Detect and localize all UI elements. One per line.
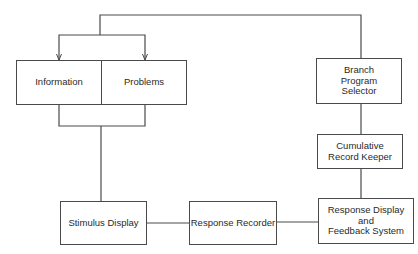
response-recorder-box: Response Recorder — [189, 201, 277, 245]
problems-label: Problems — [124, 77, 164, 88]
stimulus-display-label: Stimulus Display — [68, 218, 138, 229]
response-display-feedback-label: Response Display and Feedback System — [328, 205, 405, 237]
cumulative-record-keeper-box: Cumulative Record Keeper — [317, 134, 403, 169]
split-line — [59, 35, 145, 60]
problems-box: Problems — [101, 60, 187, 105]
response-recorder-label: Response Recorder — [191, 218, 276, 229]
response-display-feedback-box: Response Display and Feedback System — [318, 198, 414, 244]
branch-program-selector-box: Branch Program Selector — [316, 58, 402, 104]
cumulative-record-keeper-label: Cumulative Record Keeper — [328, 141, 392, 162]
stimulus-display-box: Stimulus Display — [60, 201, 147, 245]
information-box: Information — [16, 60, 102, 105]
information-label: Information — [35, 77, 83, 88]
merge-line — [59, 104, 145, 126]
feedback-loop-line — [100, 15, 361, 58]
branch-program-selector-label: Branch Program Selector — [341, 65, 377, 97]
